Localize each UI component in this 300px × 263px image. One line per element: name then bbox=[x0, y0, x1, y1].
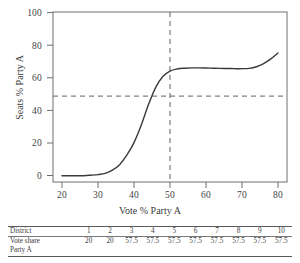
x-tick-label-20: 20 bbox=[52, 190, 72, 200]
x-tick-label-50: 50 bbox=[160, 190, 180, 200]
district-cell: 1 bbox=[78, 227, 99, 236]
vote-share-cell: 57.5 bbox=[249, 237, 270, 246]
vote-share-cell: 57.5 bbox=[228, 237, 249, 246]
row-label-vote-share: Vote share bbox=[8, 237, 78, 246]
seats-votes-figure: 0 20 40 60 80 100 20 30 40 50 60 70 80 S… bbox=[0, 0, 300, 263]
vote-share-cell: 57.5 bbox=[271, 237, 292, 246]
table-rule-bottom bbox=[8, 256, 292, 257]
district-cell: 4 bbox=[142, 227, 163, 236]
table-row-district: District 1 2 3 4 5 6 7 8 9 10 bbox=[8, 227, 292, 236]
vote-share-cell: 57.5 bbox=[206, 237, 227, 246]
district-cell: 5 bbox=[164, 227, 185, 236]
district-vote-share-table: District 1 2 3 4 5 6 7 8 9 10 Vote share bbox=[8, 226, 292, 257]
y-tick-label-0: 0 bbox=[16, 171, 42, 181]
district-cell: 7 bbox=[206, 227, 227, 236]
vote-share-cell: 57.5 bbox=[142, 237, 163, 246]
row-label-district: District bbox=[8, 227, 78, 236]
table-row-vote-share: Vote share 20 20 57.5 57.5 57.5 57.5 57.… bbox=[8, 237, 292, 246]
district-cell: 3 bbox=[121, 227, 142, 236]
vote-share-cell: 57.5 bbox=[164, 237, 185, 246]
x-tick-label-40: 40 bbox=[124, 190, 144, 200]
row-label-party-a: Party A bbox=[8, 246, 78, 255]
x-axis-title: Vote % Party A bbox=[0, 205, 300, 216]
party-a-empty-cells bbox=[78, 246, 292, 255]
district-cell: 9 bbox=[249, 227, 270, 236]
x-tick-label-80: 80 bbox=[268, 190, 288, 200]
y-tick-label-100: 100 bbox=[16, 8, 42, 18]
table-row-party-a: Party A bbox=[8, 246, 292, 255]
y-axis-title: Seats % Party A bbox=[14, 33, 25, 143]
x-tick-label-30: 30 bbox=[88, 190, 108, 200]
x-axis-ticks bbox=[62, 182, 278, 188]
x-tick-label-60: 60 bbox=[196, 190, 216, 200]
district-cell: 6 bbox=[185, 227, 206, 236]
vote-share-cell: 20 bbox=[99, 237, 120, 246]
vote-share-cell: 20 bbox=[78, 237, 99, 246]
x-tick-label-70: 70 bbox=[232, 190, 252, 200]
vote-share-cell: 57.5 bbox=[121, 237, 142, 246]
district-cell: 2 bbox=[99, 227, 120, 236]
plot-canvas bbox=[0, 0, 300, 263]
district-cell: 10 bbox=[271, 227, 292, 236]
district-cell: 8 bbox=[228, 227, 249, 236]
vote-share-cell: 57.5 bbox=[185, 237, 206, 246]
y-axis-ticks bbox=[47, 13, 53, 176]
